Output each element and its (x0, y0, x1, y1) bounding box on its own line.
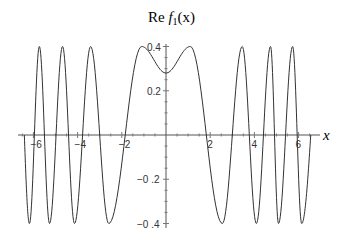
chart-title: Re f1(x) (148, 9, 195, 27)
x-tick-label: 4 (251, 139, 257, 150)
x-tick-label: −6 (30, 139, 42, 150)
x-axis-label: x (322, 127, 330, 143)
y-tick-label: −0 .2 (137, 174, 160, 185)
chart: Re f1(x) −6−4−22460.40.2−0 .2−0 .4 x (0, 0, 342, 242)
y-tick-label: 0.2 (147, 86, 161, 97)
y-tick-label: −0 .4 (137, 219, 160, 230)
x-tick-label: −4 (75, 139, 87, 150)
y-tick-label: 0.4 (147, 42, 161, 53)
x-tick-label: 6 (296, 139, 302, 150)
